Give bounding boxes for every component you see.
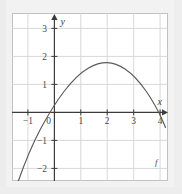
parabola-graph: −1 0 1 2 3 4 3 2 1 −1 −2 x y f: [12, 13, 168, 181]
curve-label-f: f: [155, 157, 159, 167]
y-tick-labels: 3 2 1 −1 −2: [37, 24, 47, 174]
tick-marks: [28, 28, 160, 168]
chart-screenshot: −1 0 1 2 3 4 3 2 1 −1 −2 x y f: [0, 0, 182, 194]
y-tick-label-2: 2: [42, 52, 47, 62]
page-background-left-band: [0, 0, 6, 194]
y-axis-label: y: [60, 16, 66, 27]
page-background-right-band: [174, 0, 182, 194]
y-tick-label--2: −2: [37, 164, 47, 174]
y-tick-label-3: 3: [42, 24, 47, 34]
y-tick-label-1: 1: [42, 80, 47, 90]
x-axis-arrow-icon: [162, 109, 168, 115]
x-tick-label-2: 2: [105, 116, 110, 126]
x-tick-labels: −1 0 1 2 3 4: [23, 116, 163, 126]
gridlines: [13, 14, 168, 181]
y-axis-arrow-icon: [51, 14, 57, 20]
x-tick-label-3: 3: [131, 116, 136, 126]
x-axis-label: x: [157, 96, 163, 107]
y-tick-label--1: −1: [37, 136, 47, 146]
x-tick-label--1: −1: [23, 116, 33, 126]
axes: [12, 14, 168, 181]
page-background-bottom-band: [0, 187, 182, 194]
x-tick-label-1: 1: [78, 116, 83, 126]
x-tick-label-4: 4: [158, 116, 163, 126]
